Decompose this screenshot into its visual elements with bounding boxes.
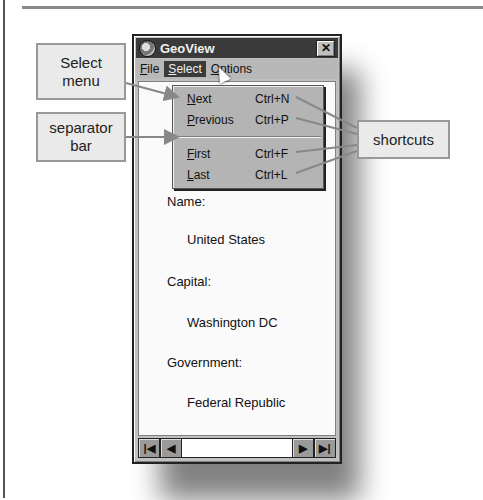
callout-arrows xyxy=(0,0,483,498)
